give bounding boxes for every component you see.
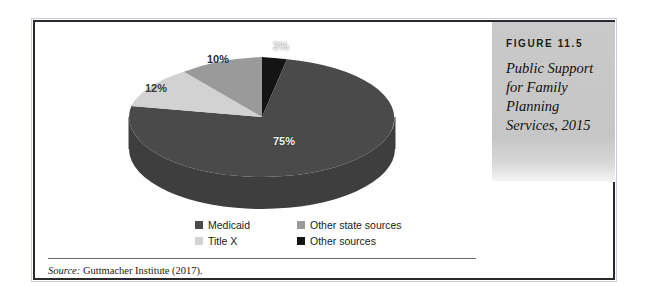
legend-label: Medicaid bbox=[208, 219, 250, 231]
legend-swatch-icon bbox=[195, 221, 203, 229]
slice-label-other-sources: 3% bbox=[273, 40, 289, 52]
legend-label: Title X bbox=[208, 235, 237, 247]
legend-swatch-icon bbox=[195, 237, 203, 245]
pie-chart: 75% 12% 10% 3% bbox=[127, 32, 397, 217]
legend: Medicaid Other state sources Title X Oth… bbox=[195, 219, 425, 251]
pie-svg bbox=[127, 32, 397, 217]
figure-title: Public Support for Family Planning Servi… bbox=[506, 59, 605, 135]
legend-item-title-x: Title X bbox=[195, 235, 297, 247]
legend-swatch-icon bbox=[297, 221, 305, 229]
legend-row: Title X Other sources bbox=[195, 235, 425, 247]
legend-item-other-sources: Other sources bbox=[297, 235, 425, 247]
slice-label-other-state: 10% bbox=[207, 53, 229, 65]
legend-label: Other sources bbox=[310, 235, 376, 247]
chart-area: 75% 12% 10% 3% Medicaid Other state sour… bbox=[35, 22, 492, 237]
figure-number: FIGURE 11.5 bbox=[506, 38, 605, 49]
caption-panel: FIGURE 11.5 Public Support for Family Pl… bbox=[492, 22, 615, 182]
legend-label: Other state sources bbox=[310, 219, 402, 231]
slice-label-title-x: 12% bbox=[145, 82, 167, 94]
legend-item-medicaid: Medicaid bbox=[195, 219, 297, 231]
figure-frame: 75% 12% 10% 3% Medicaid Other state sour… bbox=[33, 20, 615, 280]
source-label: Source: bbox=[48, 265, 80, 276]
source-text: Guttmacher Institute (2017). bbox=[80, 265, 202, 276]
legend-swatch-icon bbox=[297, 237, 305, 245]
figure-page: 75% 12% 10% 3% Medicaid Other state sour… bbox=[0, 0, 649, 298]
legend-item-other-state: Other state sources bbox=[297, 219, 425, 231]
slice-label-medicaid: 75% bbox=[273, 135, 295, 147]
source-divider bbox=[48, 258, 476, 259]
source-note: Source: Guttmacher Institute (2017). bbox=[48, 265, 203, 276]
legend-row: Medicaid Other state sources bbox=[195, 219, 425, 231]
